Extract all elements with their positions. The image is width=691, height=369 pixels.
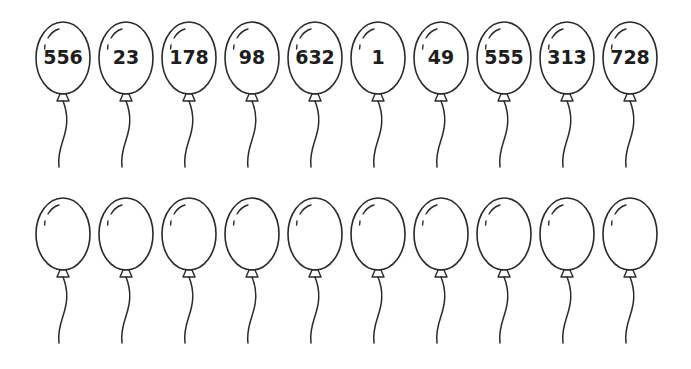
- bottom-balloon: [33, 196, 93, 356]
- bottom-balloon-row: [0, 196, 691, 356]
- top-balloon: 23: [96, 20, 156, 180]
- bottom-balloon: [285, 196, 345, 356]
- balloon-number: 313: [537, 46, 597, 68]
- top-balloon: 555: [474, 20, 534, 180]
- bottom-balloon: [348, 196, 408, 356]
- balloon-number: 555: [474, 46, 534, 68]
- bottom-balloon: [411, 196, 471, 356]
- balloon-number: 178: [159, 46, 219, 68]
- bottom-balloon: [474, 196, 534, 356]
- top-balloon: 98: [222, 20, 282, 180]
- top-balloon: 1: [348, 20, 408, 180]
- balloon-number: 98: [222, 46, 282, 68]
- top-balloon: 313: [537, 20, 597, 180]
- balloon-number: 728: [600, 46, 660, 68]
- top-balloon: 556: [33, 20, 93, 180]
- top-balloon: 178: [159, 20, 219, 180]
- balloon-number: 49: [411, 46, 471, 68]
- balloon-number: 23: [96, 46, 156, 68]
- bottom-balloon: [96, 196, 156, 356]
- bottom-balloon: [537, 196, 597, 356]
- balloon-number: 1: [348, 46, 408, 68]
- bottom-balloon: [600, 196, 660, 356]
- top-balloon-row: 556 23 178 98 632 1 49 555 313 728: [0, 20, 691, 180]
- top-balloon: 632: [285, 20, 345, 180]
- balloon-number: 556: [33, 46, 93, 68]
- balloon-number: 632: [285, 46, 345, 68]
- top-balloon: 728: [600, 20, 660, 180]
- bottom-balloon: [159, 196, 219, 356]
- top-balloon: 49: [411, 20, 471, 180]
- bottom-balloon: [222, 196, 282, 356]
